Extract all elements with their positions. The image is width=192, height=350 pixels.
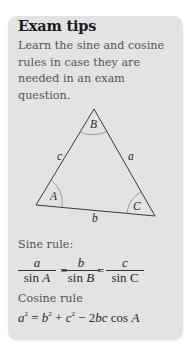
cosine-rule-label: Cosine rule [18, 292, 83, 305]
vertex-a-label: A [50, 190, 57, 202]
sine-term-b: b sin B [62, 256, 100, 285]
vertex-c-label: C [133, 200, 141, 212]
side-c-label: c [57, 150, 62, 162]
side-a-label: a [128, 150, 134, 162]
cosine-rule-formula: a2 = b2 + c2 − 2bc cos A [18, 310, 139, 326]
sine-term-c: c sin C [106, 256, 144, 285]
side-b-label: b [92, 212, 98, 224]
vertex-b-label: B [90, 118, 97, 130]
sine-term-a: a sin A [18, 256, 56, 285]
sine-rule-label: Sine rule: [18, 238, 73, 251]
